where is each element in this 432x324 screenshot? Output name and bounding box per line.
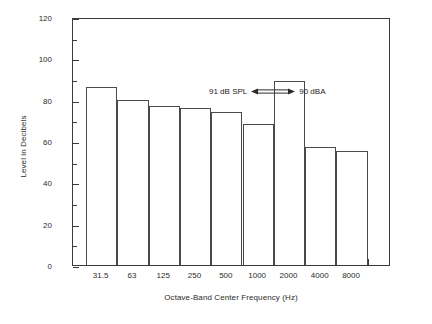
- x-tick-label: 8000: [330, 271, 372, 280]
- double-headed-arrow-icon: [251, 87, 295, 96]
- y-tick-major: [73, 60, 79, 61]
- bar: [180, 108, 211, 265]
- y-tick-major: [73, 143, 79, 144]
- bar: [117, 100, 148, 265]
- y-tick-minor: [73, 205, 77, 206]
- y-tick-label: 120: [12, 14, 52, 23]
- x-tick: [368, 259, 369, 265]
- y-tick-label: 60: [12, 138, 52, 147]
- annotation-spl-dba: 91 dB SPL 90 dBA: [209, 83, 326, 99]
- y-tick-major: [73, 184, 79, 185]
- annotation-left-label: 91 dB SPL: [209, 87, 247, 96]
- y-tick-label: 40: [12, 179, 52, 188]
- y-tick-major: [73, 267, 79, 268]
- bar: [149, 106, 180, 265]
- y-tick-minor: [73, 40, 77, 41]
- y-tick-major: [73, 102, 79, 103]
- x-axis-title: Octave-Band Center Frequency (Hz): [72, 293, 390, 302]
- y-tick-label: 100: [12, 55, 52, 64]
- bar: [211, 112, 242, 265]
- annotation-right-label: 90 dBA: [299, 87, 325, 96]
- plot-area: 91 dB SPL 90 dBA: [72, 18, 390, 266]
- y-tick-minor: [73, 122, 77, 123]
- y-tick-minor: [73, 81, 77, 82]
- y-tick-major: [73, 226, 79, 227]
- y-tick-minor: [73, 246, 77, 247]
- bar: [86, 87, 117, 265]
- y-tick-label: 20: [12, 220, 52, 229]
- y-tick-label: 80: [12, 96, 52, 105]
- y-tick-minor: [73, 164, 77, 165]
- chart-figure: Level in Decibels 020406080100120 91 dB …: [0, 0, 432, 324]
- bar: [274, 81, 305, 265]
- bar: [336, 151, 367, 265]
- y-tick-major: [73, 19, 79, 20]
- bar: [305, 147, 336, 265]
- bar: [243, 124, 274, 265]
- y-tick-label: 0: [12, 262, 52, 271]
